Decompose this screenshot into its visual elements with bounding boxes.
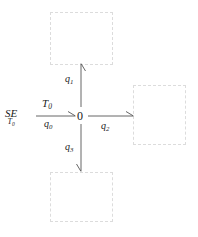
- diagram-canvas: 0 SE T0 T0 q0 q1 q2 q3: [0, 0, 198, 237]
- input-arrow-head: [68, 112, 76, 117]
- source-sub-index: 0: [12, 121, 15, 127]
- edge-label-q1: q1: [65, 74, 73, 84]
- right-arrow-head: [126, 112, 134, 117]
- edge-label-q3-subscript: 3: [70, 146, 73, 153]
- edge-label-q1-subscript: 1: [70, 78, 73, 85]
- up-arrow-head: [81, 64, 86, 72]
- edge-label-q3: q3: [65, 142, 73, 152]
- center-node-label: 0: [77, 110, 83, 122]
- down-arrow-head: [77, 164, 82, 172]
- edge-label-q0-subscript: 0: [49, 123, 52, 130]
- arrow-layer: [0, 0, 198, 237]
- source-label-sub: T0: [5, 118, 17, 126]
- edge-label-t0-subscript: 0: [48, 102, 52, 111]
- source-label: SE T0: [5, 108, 17, 126]
- edge-label-q2: q2: [101, 121, 109, 131]
- edge-label-q0: q0: [44, 119, 52, 129]
- edge-label-t0: T0: [42, 98, 52, 109]
- edge-label-q2-subscript: 2: [106, 125, 109, 132]
